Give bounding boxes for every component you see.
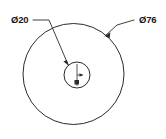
technical-drawing-canvas: Ø20 Ø76 bbox=[0, 0, 166, 139]
inner-diameter-label: Ø20 bbox=[11, 14, 28, 25]
outer-circle bbox=[23, 24, 124, 125]
inner-diameter-leader-line bbox=[33, 20, 69, 66]
outer-diameter-label: Ø76 bbox=[139, 14, 156, 25]
drawing-svg: Ø20 Ø76 bbox=[0, 0, 166, 139]
center-block-marker bbox=[75, 80, 80, 85]
center-tick-arrowhead bbox=[80, 73, 84, 76]
